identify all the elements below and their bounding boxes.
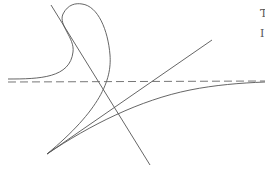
lower-curve <box>47 82 265 154</box>
asymptote-dashed <box>8 81 265 82</box>
loop-curve <box>8 4 110 154</box>
diagram-canvas <box>0 0 265 172</box>
edge-glyph-1: T <box>260 8 265 19</box>
edge-glyph-2: I <box>260 28 264 39</box>
